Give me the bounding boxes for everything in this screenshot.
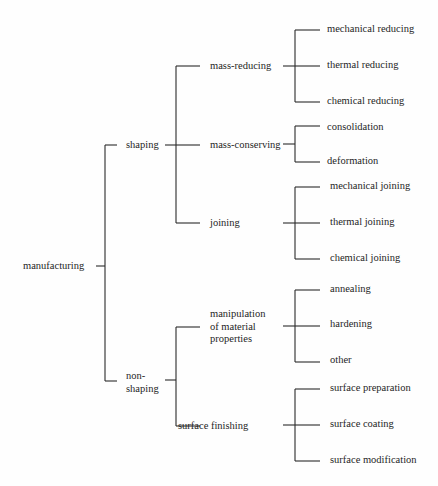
node-hardening: hardening [330, 318, 372, 331]
node-manipulation-of-material-properties: manipulation of material properties [210, 308, 265, 346]
node-chemical-reducing: chemical reducing [327, 95, 404, 108]
node-non-shaping: non- shaping [126, 370, 159, 395]
node-surface-finishing: surface finishing [178, 420, 248, 433]
node-surface-preparation: surface preparation [330, 382, 411, 395]
node-shaping: shaping [126, 139, 159, 152]
node-mechanical-reducing: mechanical reducing [327, 23, 414, 36]
node-surface-coating: surface coating [330, 418, 394, 431]
node-mass-reducing: mass-reducing [210, 60, 271, 73]
node-non-shaping-line-2: shaping [126, 383, 159, 396]
node-joining: joining [210, 217, 240, 230]
node-manipulation-line-2: of material [210, 321, 265, 334]
classification-diagram: manufacturing shaping non- shaping mass-… [0, 0, 438, 486]
node-thermal-reducing: thermal reducing [327, 59, 398, 72]
node-other: other [330, 354, 352, 367]
node-manipulation-line-1: manipulation [210, 308, 265, 321]
node-chemical-joining: chemical joining [330, 252, 400, 265]
node-mass-conserving: mass-conserving [210, 139, 281, 152]
node-deformation: deformation [327, 155, 378, 168]
node-manufacturing: manufacturing [23, 260, 84, 273]
node-non-shaping-line-1: non- [126, 370, 159, 383]
node-thermal-joining: thermal joining [330, 216, 394, 229]
node-surface-modification: surface modification [330, 454, 417, 467]
tree-connector-lines [0, 0, 438, 486]
node-manipulation-line-3: properties [210, 333, 265, 346]
node-annealing: annealing [330, 283, 371, 296]
node-consolidation: consolidation [327, 121, 384, 134]
node-mechanical-joining: mechanical joining [330, 180, 410, 193]
